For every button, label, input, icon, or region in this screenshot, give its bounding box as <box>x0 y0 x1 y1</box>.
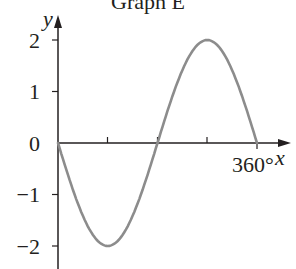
y-axis-label: y <box>41 6 53 31</box>
y-tick-label: 0 <box>29 131 40 156</box>
x-axis-label: x <box>274 145 285 170</box>
chart-title: Graph E <box>111 0 185 14</box>
y-tick-label: 2 <box>29 28 40 53</box>
y-tick-label: −1 <box>17 182 40 207</box>
y-tick-label: −2 <box>17 234 40 259</box>
y-tick-label: 1 <box>29 79 40 104</box>
y-axis-arrow-icon <box>54 15 62 28</box>
x-tick-label: 360° <box>232 152 274 177</box>
graph-e-chart: Graph E 2 1 0 −1 −2 360° y x <box>0 0 296 269</box>
